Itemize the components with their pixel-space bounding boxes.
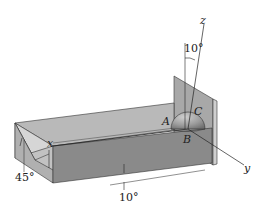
diagram-canvas: z 10° A C B y x 45° 10° (0, 0, 267, 213)
axis-y-label: y (243, 162, 251, 175)
axis-z-label: z (199, 14, 206, 27)
groove-angle-label: 45° (15, 171, 35, 184)
z-tilt-angle-label: 10° (184, 42, 204, 55)
incline-angle-label: 10° (119, 191, 139, 204)
point-c-label: C (194, 105, 203, 118)
point-a-label: A (161, 115, 170, 128)
point-b-label: B (182, 133, 191, 146)
axis-x-label: x (47, 137, 54, 150)
z-tilt-angle-arc (185, 58, 195, 60)
